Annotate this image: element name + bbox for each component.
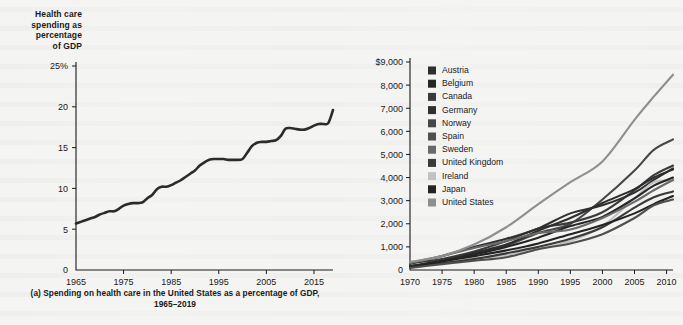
figure-b-x-tick-label: 1970 bbox=[400, 277, 420, 287]
figure-b-y-tick-label: 7,000 bbox=[380, 104, 403, 114]
figure-a-y-tick-label: 0 bbox=[63, 265, 68, 275]
legend-item-label: United Kingdom bbox=[442, 157, 503, 167]
figure-a-axis-lines bbox=[76, 62, 333, 270]
figure-b-x-tick-label: 1985 bbox=[496, 277, 516, 287]
legend-item-label: Sweden bbox=[442, 144, 473, 154]
legend-item[interactable]: Japan bbox=[428, 184, 466, 194]
figure-b-plot: $9,0008,0007,0006,0005,0004,0003,0002,00… bbox=[340, 0, 683, 325]
legend-swatch bbox=[428, 146, 436, 154]
legend-swatch bbox=[428, 172, 436, 180]
figure-a-x-tick-label: 2015 bbox=[304, 277, 324, 287]
figure-b-spending-per-person: Health care spending per person $9,0008,… bbox=[340, 0, 683, 325]
figure-b-x-tick-label: 1975 bbox=[432, 277, 452, 287]
figure-b-y-tick-label: 2,000 bbox=[380, 219, 403, 229]
figure-a-y-tick-label: 10 bbox=[58, 184, 68, 194]
legend-item-label: Belgium bbox=[442, 78, 473, 88]
figure-b-y-tick-label: 6,000 bbox=[380, 127, 403, 137]
figure-a-y-tick-label: 15 bbox=[58, 143, 68, 153]
figure-a-x-tick-label: 1985 bbox=[161, 277, 181, 287]
figure-b-y-tick-label: 8,000 bbox=[380, 81, 403, 91]
figure-b-x-tick-label: 2010 bbox=[657, 277, 677, 287]
legend-item[interactable]: Spain bbox=[428, 131, 464, 141]
figure-b-y-tick-label: 3,000 bbox=[380, 196, 403, 206]
legend-item-label: United States bbox=[442, 197, 494, 207]
legend-item[interactable]: Germany bbox=[428, 105, 478, 115]
legend-item-label: Norway bbox=[442, 118, 472, 128]
legend-item[interactable]: Ireland bbox=[428, 171, 468, 181]
figure-a-us-gdp-share: Health care spending as percentage of GD… bbox=[0, 0, 343, 325]
figure-b-x-tick-label: 2005 bbox=[624, 277, 644, 287]
legend-swatch bbox=[428, 67, 436, 75]
figure-a-series-line bbox=[76, 110, 333, 223]
legend-item-label: Spain bbox=[442, 131, 464, 141]
legend-item-label: Ireland bbox=[442, 171, 468, 181]
figure-b-y-tick-label: 4,000 bbox=[380, 173, 403, 183]
figure-b-x-tick-label: 2000 bbox=[592, 277, 612, 287]
legend-item-label: Japan bbox=[442, 184, 466, 194]
figure-a-x-tick-label: 1965 bbox=[66, 277, 86, 287]
legend-item-label: Austria bbox=[442, 65, 469, 75]
figure-a-x-tick-label: 2005 bbox=[256, 277, 276, 287]
legend-swatch bbox=[428, 119, 436, 127]
legend-item[interactable]: Canada bbox=[428, 91, 472, 101]
figure-a-y-tick-label: 5 bbox=[63, 225, 68, 235]
figure-a-y-tick-label: 20 bbox=[58, 102, 68, 112]
figure-b-x-tick-label: 1990 bbox=[528, 277, 548, 287]
legend-item-label: Germany bbox=[442, 105, 478, 115]
figure-b-y-tick-label: 1,000 bbox=[380, 242, 403, 252]
legend-swatch bbox=[428, 106, 436, 114]
legend-item[interactable]: United Kingdom bbox=[428, 157, 503, 167]
legend-swatch bbox=[428, 93, 436, 101]
legend-swatch bbox=[428, 133, 436, 141]
figure-a-y-tick-label: 25% bbox=[50, 61, 68, 71]
figure-b-y-tick-label: 0 bbox=[398, 265, 403, 275]
figure-b-y-tick-label: $9,000 bbox=[375, 57, 403, 67]
figure-a-x-tick-label: 1975 bbox=[114, 277, 134, 287]
legend-item-label: Canada bbox=[442, 91, 472, 101]
legend-item[interactable]: United States bbox=[428, 197, 494, 207]
figure-a-plot: 25%20151050196519751985199520052015 bbox=[0, 0, 343, 325]
figure-b-series-line bbox=[410, 75, 673, 262]
figure-b-legend: AustriaBelgiumCanadaGermanyNorwaySpainSw… bbox=[428, 65, 503, 207]
figure-b-x-tick-label: 1995 bbox=[560, 277, 580, 287]
figure-a-x-tick-label: 1995 bbox=[209, 277, 229, 287]
legend-item[interactable]: Norway bbox=[428, 118, 472, 128]
legend-swatch bbox=[428, 185, 436, 193]
legend-swatch bbox=[428, 159, 436, 167]
figure-b-x-tick-label: 1980 bbox=[464, 277, 484, 287]
figure-b-y-tick-label: 5,000 bbox=[380, 150, 403, 160]
legend-item[interactable]: Austria bbox=[428, 65, 469, 75]
legend-swatch bbox=[428, 80, 436, 88]
legend-item[interactable]: Belgium bbox=[428, 78, 473, 88]
legend-swatch bbox=[428, 199, 436, 207]
legend-item[interactable]: Sweden bbox=[428, 144, 473, 154]
figure-a-caption: (a) Spending on health care in the Unite… bbox=[30, 288, 320, 310]
